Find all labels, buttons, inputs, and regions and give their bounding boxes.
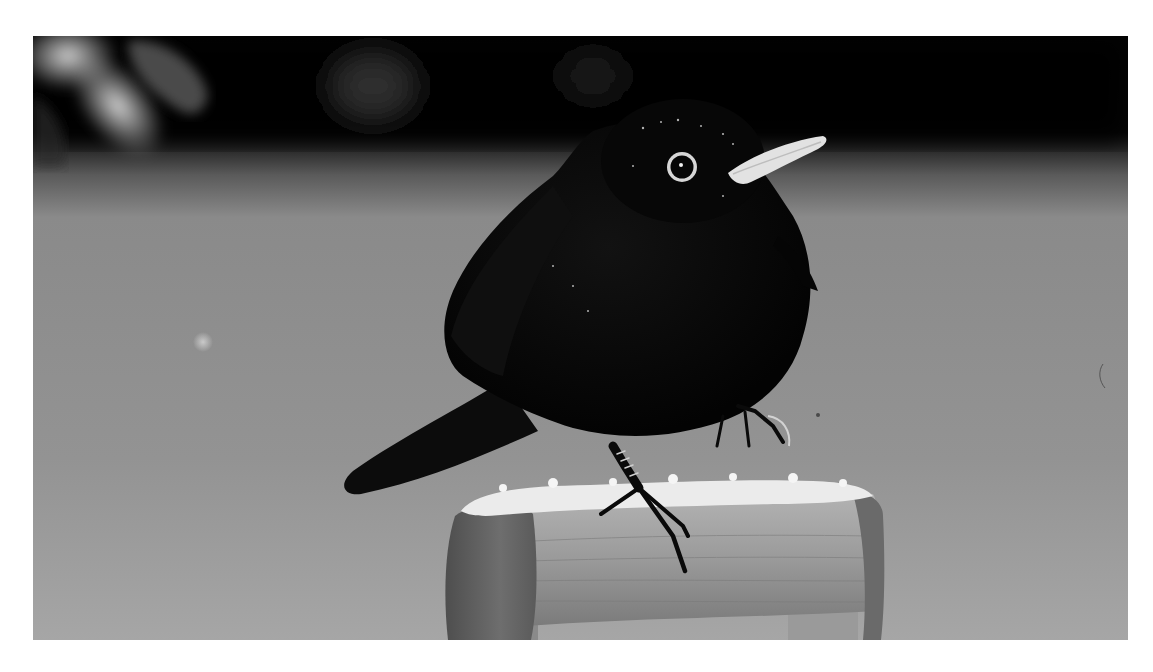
cropped-text-descenders [30,0,450,4]
eye [667,152,697,182]
wooden-handle [445,473,884,640]
handle-left-end [445,504,536,640]
bokeh-spot [193,332,213,352]
blackbird-photo [33,36,1128,640]
